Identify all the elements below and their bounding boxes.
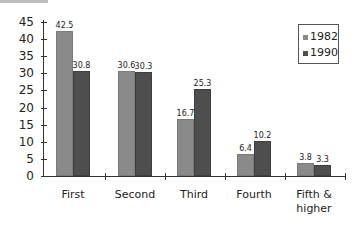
bar-1982-0 (56, 31, 73, 176)
legend-label-1982: 1982 (310, 31, 338, 43)
y-tick-label: 20 (12, 102, 34, 114)
data-label: 30.3 (132, 62, 156, 71)
y-tick (41, 142, 47, 143)
legend-item-1990: 1990 (303, 46, 338, 60)
y-tick-label: 35 (12, 50, 34, 62)
legend: 1982 1990 (298, 24, 339, 64)
y-tick-label: 10 (12, 136, 34, 148)
x-axis (43, 176, 345, 177)
data-label: 3.3 (311, 155, 335, 164)
y-tick (41, 108, 47, 109)
legend-item-1982: 1982 (303, 30, 338, 44)
category-label: Fifth & (284, 188, 344, 202)
y-tick (41, 39, 47, 40)
bar-chart: 1982 1990 05101520253035404542.530.616.7… (0, 0, 363, 228)
bar-1990-1 (135, 72, 152, 176)
y-tick-label: 0 (12, 170, 34, 182)
x-tick (285, 173, 286, 180)
bar-1982-2 (177, 119, 194, 176)
category-label: Fourth (224, 188, 284, 202)
y-tick (41, 73, 47, 74)
category-label: higher (284, 202, 344, 216)
x-tick (225, 173, 226, 180)
bar-1990-4 (314, 165, 331, 176)
data-label: 42.5 (53, 21, 77, 30)
data-label: 25.3 (191, 79, 215, 88)
bar-1982-3 (237, 154, 254, 176)
y-tick-label: 25 (12, 84, 34, 96)
bar-1990-2 (194, 89, 211, 176)
legend-swatch-1982 (303, 35, 308, 40)
bar-1982-4 (297, 163, 314, 176)
category-label: First (43, 188, 103, 202)
y-tick-label: 40 (12, 33, 34, 45)
x-tick (165, 173, 166, 180)
y-tick (41, 125, 47, 126)
category-label: Third (164, 188, 224, 202)
bar-1990-3 (254, 141, 271, 176)
legend-label-1990: 1990 (310, 47, 338, 59)
y-tick-label: 5 (12, 153, 34, 165)
y-tick (41, 176, 47, 177)
data-label: 30.8 (70, 61, 94, 70)
x-tick (345, 173, 346, 180)
bar-1990-0 (73, 71, 90, 176)
data-label: 10.2 (251, 131, 275, 140)
y-tick (41, 56, 47, 57)
y-axis (43, 20, 44, 177)
y-tick (41, 90, 47, 91)
y-tick-label: 45 (12, 16, 34, 28)
x-tick (105, 173, 106, 180)
y-tick-label: 15 (12, 119, 34, 131)
y-tick (41, 159, 47, 160)
category-label: Second (105, 188, 165, 202)
bar-1982-1 (118, 71, 135, 176)
y-tick (41, 22, 47, 23)
y-tick-label: 30 (12, 67, 34, 79)
legend-swatch-1990 (303, 51, 308, 56)
